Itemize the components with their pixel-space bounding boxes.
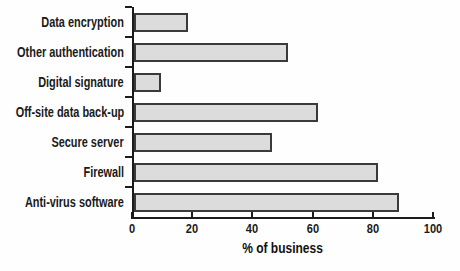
x-axis-tick (372, 212, 374, 219)
x-axis-tick (312, 212, 314, 219)
bar-off-site-data-back-up (134, 103, 318, 122)
x-tick-label-20: 20 (186, 221, 198, 236)
y-axis-tick (125, 66, 132, 68)
category-label-digital-signature: Digital signature (38, 67, 124, 97)
bar-chart: Data encryptionOther authenticationDigit… (0, 0, 460, 271)
x-axis-tick (251, 212, 253, 219)
x-tick-label-60: 60 (307, 221, 319, 236)
x-tick-label-40: 40 (246, 221, 258, 236)
bar-firewall (134, 163, 378, 182)
y-axis-tick (125, 126, 132, 128)
x-tick-label-80: 80 (367, 221, 379, 236)
x-axis-tick (131, 212, 133, 219)
x-axis-tick (432, 212, 434, 219)
bar-data-encryption (134, 13, 188, 32)
bar-secure-server (134, 133, 272, 152)
y-axis-tick (125, 36, 132, 38)
bar-anti-virus-software (134, 193, 399, 212)
bar-digital-signature (134, 73, 161, 92)
x-axis-tick (191, 212, 193, 219)
category-label-secure-server: Secure server (52, 127, 124, 157)
y-axis-tick (125, 6, 132, 8)
category-label-data-encryption: Data encryption (41, 7, 124, 37)
y-axis-tick (125, 156, 132, 158)
y-axis-tick (125, 186, 132, 188)
category-label-off-site-data-back-up: Off-site data back-up (15, 97, 124, 127)
x-axis-title: % of business (162, 239, 403, 256)
y-axis-tick (125, 96, 132, 98)
category-label-anti-virus-software: Anti-virus software (25, 187, 124, 217)
bar-other-authentication (134, 43, 288, 62)
category-labels: Data encryptionOther authenticationDigit… (0, 7, 124, 217)
plot-area (132, 7, 435, 219)
x-tick-label-100: 100 (424, 221, 442, 236)
x-tick-label-0: 0 (129, 221, 135, 236)
category-label-other-authentication: Other authentication (17, 37, 124, 67)
category-label-firewall: Firewall (83, 157, 124, 187)
